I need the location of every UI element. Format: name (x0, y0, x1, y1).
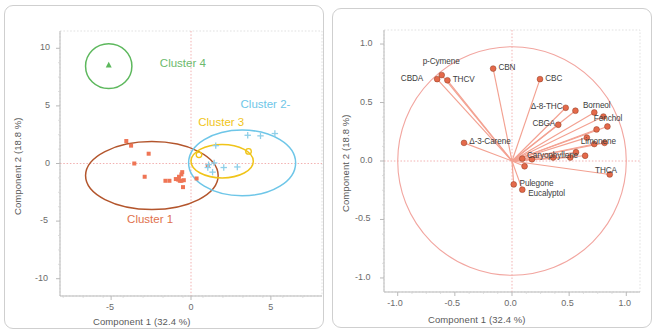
scores-y-tick-label: 5 (45, 100, 50, 110)
scores-y-tick-label: 0 (45, 158, 50, 168)
loading-label: THCA (595, 166, 617, 175)
loading-label: Borneol (583, 101, 611, 110)
loading-point (434, 76, 440, 82)
loading-label: CBN (498, 63, 515, 72)
loading-point (605, 124, 611, 130)
loading-point (522, 163, 528, 169)
loading-point (445, 77, 451, 83)
scores-y-tick-label: -10 (35, 273, 48, 283)
scatter-point (182, 178, 186, 182)
loading-label: Δ-8-THC (531, 102, 563, 111)
scatter-point (196, 152, 202, 158)
scores-y-tick-label: 10 (40, 42, 50, 52)
loading-label: Eucalyptol (528, 189, 565, 198)
loadings-y-tick-label: 0.5 (360, 97, 373, 107)
scatter-point (195, 176, 199, 180)
cluster-3-label: Cluster 3 (198, 116, 244, 128)
scatter-point (213, 142, 219, 148)
cluster-2-label: Cluster 2- (241, 98, 291, 110)
scatter-point (143, 175, 147, 179)
scatter-point (209, 169, 215, 175)
scores-y-tick-label: -5 (40, 215, 48, 225)
loading-vector (493, 69, 512, 161)
scatter-point (257, 133, 263, 139)
loading-point (537, 76, 543, 82)
scatter-point (181, 185, 185, 189)
loading-point (563, 105, 569, 111)
loading-point (582, 153, 588, 159)
scores-x-tick-label: -5 (106, 302, 114, 312)
scatter-point (124, 139, 128, 143)
loading-label: Fenchol (594, 114, 622, 123)
loadings-y-tick-label: 1.0 (360, 38, 373, 48)
scatter-point (221, 164, 227, 170)
loading-label: THCV (453, 75, 475, 84)
loading-point (490, 66, 496, 72)
loading-point (573, 108, 579, 114)
scores-x-tick-label: 0 (188, 302, 193, 312)
scatter-point (245, 132, 251, 138)
loading-label: CBGA (532, 119, 555, 128)
pca-loadings-panel: Component 2 (18.8 %) Component 1 (32.4 %… (330, 0, 655, 332)
scores-x-axis-title: Component 1 (32.4 %) (93, 316, 191, 327)
scatter-point (163, 179, 167, 183)
loadings-x-tick-label: -1.0 (387, 298, 403, 308)
loading-label: Limonene (581, 137, 616, 146)
scores-data-points (106, 62, 278, 189)
loading-label: Caryophyllene (527, 151, 578, 160)
loadings-x-tick-label: 1.0 (618, 298, 631, 308)
loading-point (519, 156, 525, 162)
pca-scores-panel: Component 2 (18.8 %) Component 1 (32.4 %… (0, 0, 330, 332)
loadings-y-tick-label: 0.0 (360, 155, 373, 165)
loading-label: p-Cymene (423, 57, 460, 66)
loadings-x-tick-label: 0.5 (561, 298, 574, 308)
scatter-point (167, 179, 171, 183)
loading-point (555, 122, 561, 128)
loading-label: Pulegone (520, 179, 554, 188)
scatter-point (106, 62, 112, 68)
cluster-1-label: Cluster 1 (127, 213, 173, 225)
loadings-y-axis-title: Component 2 (18.8 %) (340, 114, 351, 212)
loading-label: Δ-3-Carene (469, 137, 510, 146)
loadings-y-tick-label: -1.0 (355, 272, 371, 282)
loading-vectors (437, 69, 610, 190)
cluster-4-label: Cluster 4 (160, 57, 206, 69)
loading-vector (437, 79, 512, 161)
loading-label: CBC (545, 74, 562, 83)
loading-label: CBDA (401, 74, 423, 83)
scatter-point (147, 152, 151, 156)
loadings-y-tick-label: -0.5 (355, 213, 371, 223)
loading-point (594, 127, 600, 133)
loading-point (461, 140, 467, 146)
figure-root: Component 2 (18.8 %) Component 1 (32.4 %… (0, 0, 655, 332)
loadings-x-tick-label: -0.5 (444, 298, 460, 308)
scatter-point (132, 162, 136, 166)
loading-point (511, 181, 517, 187)
scatter-point (234, 164, 240, 170)
loading-point (439, 72, 445, 78)
scatter-point (129, 144, 133, 148)
loadings-x-tick-label: 0.0 (504, 298, 517, 308)
scores-x-tick-label: 5 (268, 302, 273, 312)
scores-y-axis-title: Component 2 (18.8 %) (12, 117, 23, 215)
loadings-x-axis-title: Component 1 (32.4 %) (428, 314, 526, 325)
scatter-point (180, 170, 184, 174)
